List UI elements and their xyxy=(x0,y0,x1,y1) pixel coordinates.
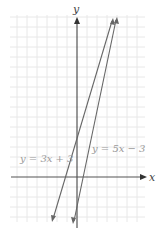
arrow-icon xyxy=(114,17,119,24)
arrow-icon xyxy=(71,217,76,224)
line-label-3x-plus-3: y = 3x + 3 xyxy=(19,153,74,164)
line-5x-minus-3 xyxy=(74,20,116,221)
y-axis-arrow-icon xyxy=(74,17,80,24)
graph: x y y = 3x + 3 y = 5x − 3 xyxy=(0,0,163,237)
arrow-icon xyxy=(110,18,115,25)
lines xyxy=(51,17,119,224)
x-axis-label: x xyxy=(149,171,156,184)
y-axis-label: y xyxy=(72,3,80,16)
x-axis-arrow-icon xyxy=(140,174,147,180)
arrow-icon xyxy=(51,215,56,222)
line-3x-plus-3 xyxy=(53,21,112,219)
line-label-5x-minus-3: y = 5x − 3 xyxy=(91,143,146,154)
